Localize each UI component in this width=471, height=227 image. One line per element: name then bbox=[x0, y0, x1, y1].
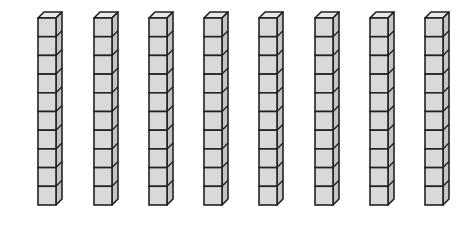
unit-cube bbox=[370, 168, 388, 187]
unit-cube bbox=[204, 186, 222, 205]
unit-cube bbox=[370, 130, 388, 149]
unit-cube bbox=[259, 149, 277, 168]
unit-cube bbox=[370, 149, 388, 168]
unit-cube bbox=[38, 130, 56, 149]
unit-cube bbox=[370, 74, 388, 93]
ten-rod bbox=[370, 12, 394, 205]
unit-cube bbox=[149, 186, 167, 205]
unit-cube bbox=[94, 74, 112, 93]
ten-rod bbox=[204, 12, 228, 205]
unit-cube bbox=[315, 55, 333, 74]
unit-cube bbox=[315, 37, 333, 56]
unit-cube bbox=[370, 186, 388, 205]
unit-cube bbox=[259, 55, 277, 74]
unit-cube bbox=[425, 74, 443, 93]
unit-cube bbox=[259, 93, 277, 112]
unit-cube bbox=[259, 37, 277, 56]
unit-cube bbox=[370, 93, 388, 112]
unit-cube bbox=[149, 130, 167, 149]
unit-cube bbox=[38, 74, 56, 93]
unit-cube bbox=[94, 149, 112, 168]
unit-cube bbox=[370, 112, 388, 131]
ten-rod bbox=[38, 12, 62, 205]
unit-cube bbox=[94, 168, 112, 187]
unit-cube bbox=[149, 112, 167, 131]
unit-cube bbox=[94, 18, 112, 37]
unit-cube bbox=[425, 186, 443, 205]
unit-cube bbox=[259, 168, 277, 187]
unit-cube bbox=[94, 112, 112, 131]
ten-rod bbox=[94, 12, 118, 205]
unit-cube bbox=[38, 93, 56, 112]
unit-cube bbox=[315, 130, 333, 149]
unit-cube bbox=[370, 18, 388, 37]
unit-cube bbox=[425, 55, 443, 74]
unit-cube bbox=[425, 18, 443, 37]
unit-cube bbox=[94, 55, 112, 74]
unit-cube bbox=[370, 55, 388, 74]
unit-cube bbox=[315, 168, 333, 187]
unit-cube bbox=[259, 186, 277, 205]
unit-cube bbox=[204, 168, 222, 187]
unit-cube bbox=[149, 55, 167, 74]
ten-rod bbox=[149, 12, 173, 205]
ten-rod bbox=[315, 12, 339, 205]
unit-cube bbox=[94, 93, 112, 112]
unit-cube bbox=[425, 112, 443, 131]
unit-cube bbox=[315, 74, 333, 93]
unit-cube bbox=[259, 130, 277, 149]
unit-cube bbox=[425, 37, 443, 56]
unit-cube bbox=[425, 130, 443, 149]
unit-cube bbox=[259, 18, 277, 37]
unit-cube bbox=[204, 37, 222, 56]
unit-cube bbox=[204, 149, 222, 168]
unit-cube bbox=[149, 93, 167, 112]
unit-cube bbox=[204, 55, 222, 74]
unit-cube bbox=[38, 55, 56, 74]
unit-cube bbox=[38, 186, 56, 205]
unit-cube bbox=[315, 186, 333, 205]
unit-cube bbox=[315, 149, 333, 168]
unit-cube bbox=[204, 18, 222, 37]
unit-cube bbox=[204, 93, 222, 112]
unit-cube bbox=[149, 149, 167, 168]
unit-cube bbox=[259, 112, 277, 131]
unit-cube bbox=[425, 168, 443, 187]
unit-cube bbox=[94, 37, 112, 56]
ten-rods-diagram bbox=[0, 0, 471, 227]
unit-cube bbox=[315, 93, 333, 112]
unit-cube bbox=[149, 18, 167, 37]
unit-cube bbox=[315, 18, 333, 37]
unit-cube bbox=[204, 74, 222, 93]
unit-cube bbox=[425, 93, 443, 112]
ten-rod bbox=[259, 12, 283, 205]
unit-cube bbox=[149, 74, 167, 93]
ten-rod bbox=[425, 12, 449, 205]
unit-cube bbox=[38, 168, 56, 187]
unit-cube bbox=[38, 18, 56, 37]
unit-cube bbox=[38, 37, 56, 56]
unit-cube bbox=[149, 168, 167, 187]
unit-cube bbox=[259, 74, 277, 93]
unit-cube bbox=[204, 130, 222, 149]
unit-cube bbox=[425, 149, 443, 168]
unit-cube bbox=[204, 112, 222, 131]
unit-cube bbox=[94, 186, 112, 205]
unit-cube bbox=[315, 112, 333, 131]
unit-cube bbox=[38, 112, 56, 131]
unit-cube bbox=[38, 149, 56, 168]
unit-cube bbox=[149, 37, 167, 56]
unit-cube bbox=[94, 130, 112, 149]
unit-cube bbox=[370, 37, 388, 56]
